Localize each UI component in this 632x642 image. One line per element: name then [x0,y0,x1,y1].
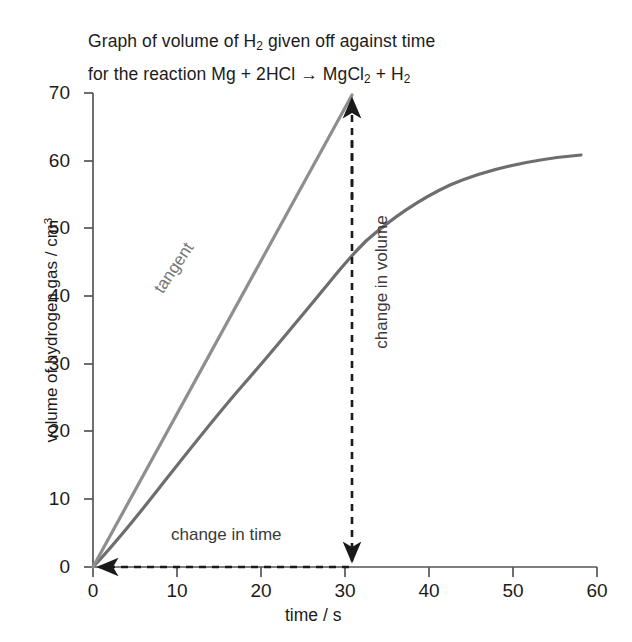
y-tick-label-10: 10 [26,488,70,510]
tangent-line [93,95,352,567]
y-tick-label-60: 60 [26,150,70,172]
y-tick-label-70: 70 [26,82,70,104]
y-axis-title-superscript: 3 [42,218,54,224]
plot-area [0,0,632,642]
reaction-curve [93,155,581,567]
y-tick-label-0: 0 [26,556,70,578]
change-in-volume-label: change in volume [372,187,392,377]
x-tick-label-30: 30 [325,580,365,602]
x-tick-label-20: 20 [241,580,281,602]
x-tick-label-60: 60 [577,580,617,602]
chart-page: Graph of volume of H2 given off against … [0,0,632,642]
x-tick-label-10: 10 [157,580,197,602]
x-tick-label-50: 50 [493,580,533,602]
y-axis-title: volume of hydrogen gas / cm3 [42,180,62,480]
x-axis-title: time / s [285,605,341,626]
x-tick-label-40: 40 [409,580,449,602]
y-axis-ticks [84,93,93,567]
x-axis-ticks [93,567,597,577]
x-tick-label-0: 0 [73,580,113,602]
y-axis-title-text: volume of hydrogen gas / cm [42,224,61,442]
change-in-time-label: change in time [171,525,282,545]
